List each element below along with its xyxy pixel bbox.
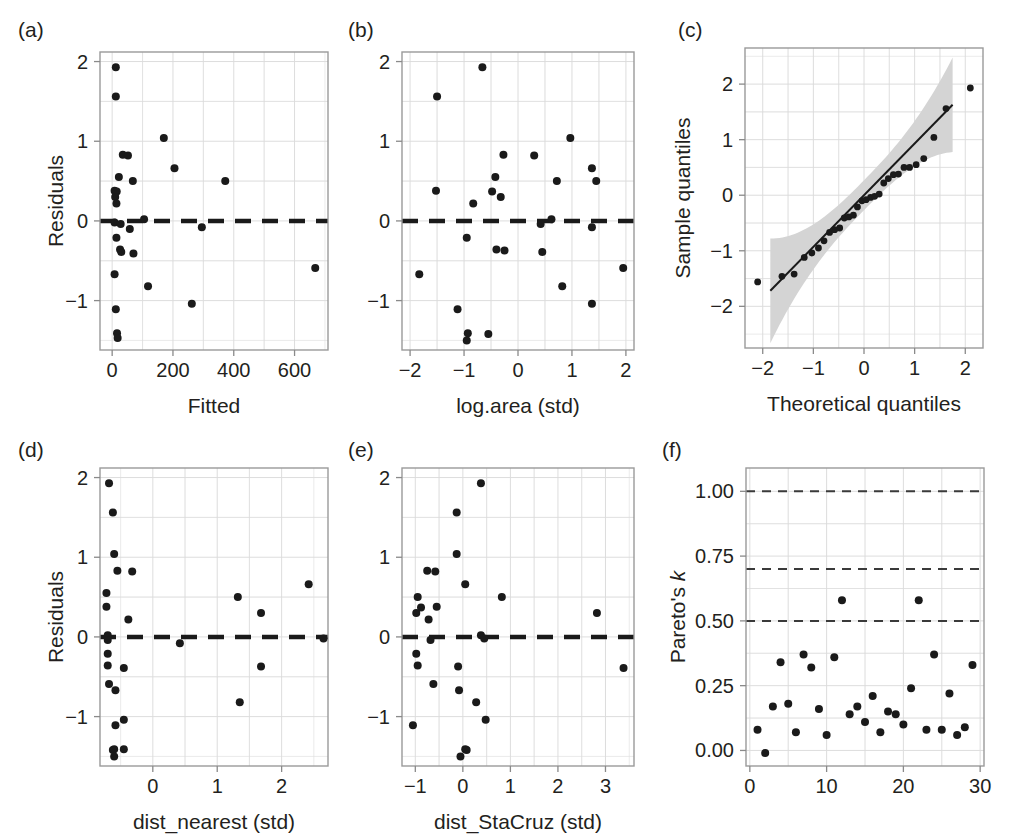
x-tick-label: 10: [815, 775, 837, 797]
axis-ticks-c: −2−1012−2−1012: [710, 73, 971, 379]
data-point: [477, 631, 485, 639]
data-point: [105, 680, 113, 688]
data-point: [800, 651, 808, 659]
data-point: [815, 245, 822, 252]
data-point: [876, 728, 884, 736]
data-point: [922, 726, 930, 734]
data-point: [112, 305, 120, 313]
data-point: [792, 728, 800, 736]
y-tick-label: 0: [77, 210, 88, 232]
x-tick-label: 0: [107, 359, 118, 381]
data-point: [128, 568, 136, 576]
x-tick-label: −1: [404, 775, 427, 797]
data-point: [538, 248, 546, 256]
x-tick-label: 0: [744, 775, 755, 797]
plot-frame-f: [746, 468, 984, 766]
x-axis-label-a: Fitted: [40, 394, 388, 418]
data-point: [530, 152, 538, 160]
x-tick-label: 0: [457, 775, 468, 797]
data-point: [558, 282, 566, 290]
data-point: [901, 164, 908, 171]
data-point: [859, 197, 866, 204]
data-point: [111, 193, 119, 201]
data-point: [853, 702, 861, 710]
data-point: [588, 223, 596, 231]
data-point: [906, 164, 913, 171]
data-point: [429, 680, 437, 688]
data-point: [455, 686, 463, 694]
x-axis-label-e: dist_StaCruz (std): [342, 810, 694, 834]
y-tick-label: 0: [722, 184, 733, 206]
data-point: [592, 177, 600, 185]
y-tick-label: 2: [77, 51, 88, 73]
data-point: [499, 151, 507, 159]
y-axis-label-symbol: k: [666, 571, 689, 582]
data-point: [831, 226, 838, 233]
data-point: [863, 196, 870, 203]
gridlines-e: [402, 468, 634, 766]
panel-label-f: (f): [662, 438, 682, 462]
data-point: [854, 203, 861, 210]
data-point: [456, 752, 464, 760]
data-point: [409, 721, 417, 729]
y-tick-label: 0.00: [695, 739, 734, 761]
data-point: [619, 264, 627, 272]
data-point: [257, 662, 265, 670]
data-point: [415, 270, 423, 278]
y-tick-label: 0: [77, 626, 88, 648]
data-point: [111, 219, 119, 227]
data-point: [140, 215, 148, 223]
x-tick-label: 1: [909, 357, 920, 379]
data-point: [537, 220, 545, 228]
data-point: [593, 609, 601, 617]
data-point: [104, 631, 112, 639]
data-point: [861, 718, 869, 726]
data-point: [102, 603, 110, 611]
data-point: [412, 609, 420, 617]
data-point: [104, 636, 112, 644]
data-point: [777, 658, 785, 666]
data-point: [454, 305, 462, 313]
x-tick-label: 200: [156, 359, 189, 381]
data-point: [968, 661, 976, 669]
data-point: [754, 726, 762, 734]
data-point: [491, 173, 499, 181]
y-tick-label: −1: [367, 290, 390, 312]
y-axis-label-c: Sample quantiles: [671, 48, 695, 348]
data-point: [129, 250, 137, 258]
data-point: [769, 702, 777, 710]
data-point: [113, 329, 121, 337]
data-point: [114, 334, 122, 342]
plot-frame-d: [100, 468, 328, 766]
x-tick-label: 20: [892, 775, 914, 797]
data-point: [821, 237, 828, 244]
data-point: [176, 639, 184, 647]
data-points-a: [111, 63, 320, 342]
data-point: [920, 155, 927, 162]
data-points-f: [754, 596, 977, 757]
data-point: [414, 593, 422, 601]
x-tick-label: 1: [505, 775, 516, 797]
y-tick-label: −1: [367, 706, 390, 728]
data-point: [484, 330, 492, 338]
y-tick-label: 0.75: [695, 545, 734, 567]
data-point: [478, 63, 486, 71]
y-axis-label-f: Pareto's k: [666, 468, 690, 766]
x-tick-label: 400: [217, 359, 250, 381]
axis-ticks-b: −2−1012−1012: [367, 51, 631, 381]
data-point: [482, 716, 490, 724]
data-point: [907, 684, 915, 692]
data-points-b: [415, 63, 627, 344]
data-point: [967, 85, 974, 92]
data-point: [417, 603, 425, 611]
data-point: [915, 596, 923, 604]
x-tick-label: 2: [620, 359, 631, 381]
data-point: [115, 173, 123, 181]
data-point: [144, 282, 152, 290]
data-point: [433, 603, 441, 611]
